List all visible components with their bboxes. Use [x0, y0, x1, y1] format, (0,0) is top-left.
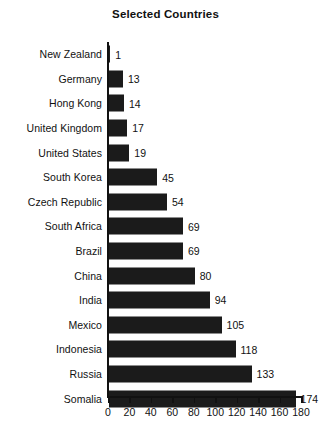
bar-container: 118: [109, 341, 257, 358]
bar-value-label: 94: [215, 295, 227, 306]
bar-container: 94: [109, 292, 226, 309]
bar: [109, 169, 157, 186]
bar-category-label: India: [79, 294, 102, 306]
bar-row: Brazil69: [0, 239, 331, 264]
bar: [109, 95, 124, 112]
x-axis-tick: [129, 396, 131, 403]
x-axis-tick: [151, 396, 153, 403]
bar-category-label: China: [74, 270, 102, 282]
bar-value-label: 17: [132, 123, 144, 134]
bar-value-label: 14: [129, 98, 141, 109]
bar-row: South Africa69: [0, 214, 331, 239]
x-axis-tick: [258, 396, 260, 403]
bar-row: Russia133: [0, 362, 331, 387]
bar-row: South Korea45: [0, 165, 331, 190]
bar-container: 80: [109, 267, 211, 284]
bar-row: Indonesia118: [0, 337, 331, 362]
bar: [109, 46, 110, 63]
bar-category-label: Hong Kong: [49, 97, 102, 109]
bar-container: 54: [109, 193, 184, 210]
bar-row: New Zealand1: [0, 42, 331, 67]
bar-category-label: Czech Republic: [28, 196, 102, 208]
x-axis-tick: [280, 396, 282, 403]
bar-category-label: Somalia: [64, 393, 102, 405]
bar-category-label: Indonesia: [56, 343, 102, 355]
x-axis-tick-label: 40: [145, 406, 157, 418]
bar-container: 13: [109, 70, 140, 87]
x-axis-tick-label-group: 020406080100120140160180: [107, 406, 301, 420]
bar-row: Germany13: [0, 67, 331, 92]
bar-row: United Kingdom17: [0, 116, 331, 141]
bar-category-label: Germany: [58, 73, 102, 85]
bar: [109, 243, 183, 260]
bar-row: China80: [0, 263, 331, 288]
x-axis-tick-label: 160: [271, 406, 289, 418]
bar-row: Hong Kong14: [0, 91, 331, 116]
x-axis-tick-label: 80: [188, 406, 200, 418]
bar-container: 45: [109, 169, 174, 186]
plot-area: New Zealand1Germany13Hong Kong14United K…: [0, 0, 331, 445]
bar: [109, 341, 236, 358]
bar-value-label: 1: [115, 49, 121, 60]
bar-value-label: 105: [227, 320, 245, 331]
bar-value-label: 19: [134, 147, 146, 158]
bar-container: 19: [109, 144, 146, 161]
bar-row: Czech Republic54: [0, 190, 331, 215]
bar-chart: Selected Countries New Zealand1Germany13…: [0, 0, 331, 445]
x-axis-tick-label: 120: [228, 406, 246, 418]
x-axis-tick-label: 140: [249, 406, 267, 418]
bar-category-label: United States: [38, 147, 102, 159]
bar-container: 14: [109, 95, 141, 112]
bar-container: 17: [109, 120, 144, 137]
bar-category-label: Brazil: [75, 245, 102, 257]
bar-row: United States19: [0, 140, 331, 165]
bar: [109, 218, 183, 235]
bar-row: India94: [0, 288, 331, 313]
x-axis-tick-group: [107, 396, 301, 403]
x-axis-tick: [108, 396, 110, 403]
bar-container: 69: [109, 218, 200, 235]
bar-value-label: 45: [162, 172, 174, 183]
bar-value-label: 174: [301, 393, 319, 404]
bar: [109, 267, 195, 284]
bar: [109, 193, 167, 210]
x-axis-tick-label: 0: [105, 406, 111, 418]
bar-value-label: 80: [200, 270, 212, 281]
x-axis-tick: [215, 396, 217, 403]
x-axis-tick: [172, 396, 174, 403]
x-axis-tick: [194, 396, 196, 403]
x-axis-tick-label: 100: [206, 406, 224, 418]
bar-container: 69: [109, 243, 200, 260]
bar-category-label: South Africa: [45, 220, 102, 232]
x-axis-tick-label: 180: [292, 406, 310, 418]
bar-row-group: New Zealand1Germany13Hong Kong14United K…: [0, 42, 331, 411]
bar-value-label: 13: [128, 74, 140, 85]
bar-container: 105: [109, 316, 244, 333]
x-axis-tick-label: 20: [124, 406, 136, 418]
x-axis-tick: [237, 396, 239, 403]
bar: [109, 144, 129, 161]
bar: [109, 70, 123, 87]
bar-row: Mexico105: [0, 313, 331, 338]
x-axis-tick-label: 60: [166, 406, 178, 418]
bar-value-label: 133: [257, 369, 275, 380]
bar-value-label: 69: [188, 221, 200, 232]
bar-value-label: 69: [188, 246, 200, 257]
bar: [109, 292, 210, 309]
bar-category-label: United Kingdom: [27, 122, 102, 134]
bar-category-label: South Korea: [43, 171, 102, 183]
bar-category-label: New Zealand: [40, 48, 102, 60]
bar: [109, 366, 252, 383]
bar-container: 133: [109, 366, 274, 383]
bar: [109, 316, 222, 333]
bar-container: 1: [109, 46, 121, 63]
bar-category-label: Mexico: [68, 319, 102, 331]
x-axis-tick: [301, 396, 303, 403]
bar: [109, 120, 127, 137]
bar-category-label: Russia: [70, 368, 102, 380]
bar-value-label: 118: [241, 344, 258, 355]
bar-value-label: 54: [172, 197, 184, 208]
